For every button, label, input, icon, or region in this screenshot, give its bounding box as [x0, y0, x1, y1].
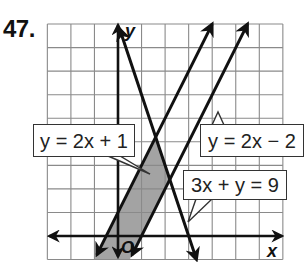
origin-label: O — [121, 239, 134, 256]
label-3x-plus-y-9: 3x + y = 9 — [183, 170, 287, 200]
label-text: 3x + y = 9 — [191, 175, 279, 195]
label-y-2x-minus-2: y = 2x − 2 — [200, 124, 304, 157]
callout-pointer-line3 — [188, 199, 212, 222]
y-axis-label: y — [125, 22, 135, 40]
label-text: y = 2x − 2 — [208, 131, 296, 151]
x-axis-label: x — [267, 242, 277, 260]
label-text: y = 2x + 1 — [40, 131, 128, 151]
label-y-2x-plus-1: y = 2x + 1 — [33, 124, 135, 157]
